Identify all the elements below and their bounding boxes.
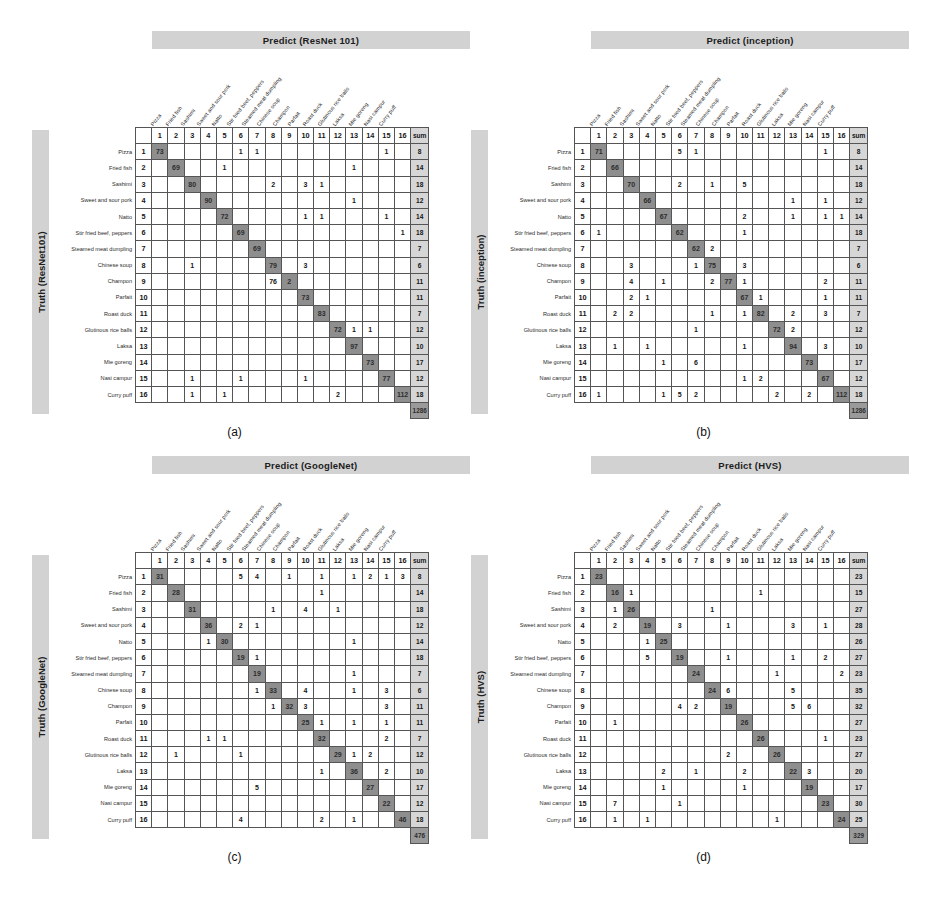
row-sum-cell: 14	[411, 633, 429, 649]
matrix-cell	[395, 208, 411, 224]
matrix-row: Sashimi38023118	[40, 176, 429, 192]
matrix-cell: 19	[639, 617, 655, 633]
matrix-cell	[785, 601, 801, 617]
matrix-cell	[607, 650, 623, 666]
column-header-label: Pizza	[149, 113, 162, 127]
matrix-cell	[672, 812, 688, 828]
matrix-cell	[639, 779, 655, 795]
matrix-cell	[330, 617, 346, 633]
matrix-cell	[704, 617, 720, 633]
row-index: 5	[575, 633, 591, 649]
matrix-cell	[395, 731, 411, 747]
matrix-cell	[623, 747, 639, 763]
matrix-cell: 2	[785, 306, 801, 322]
row-sum-cell: 17	[411, 354, 429, 370]
matrix-row: Roast duck11837	[40, 306, 429, 322]
matrix-cell	[200, 569, 216, 585]
column-index-header: 8	[265, 128, 281, 144]
matrix-cell: 1	[314, 176, 330, 192]
matrix-cell	[704, 698, 720, 714]
spacer-cell	[591, 403, 607, 419]
matrix-cell	[817, 747, 833, 763]
spacer-cell	[40, 403, 136, 419]
matrix-cell	[297, 160, 313, 176]
matrix-cell	[688, 306, 704, 322]
row-sum-cell: 14	[850, 160, 868, 176]
matrix-cell	[639, 387, 655, 403]
matrix-cell	[688, 795, 704, 811]
matrix-cell	[297, 666, 313, 682]
matrix-cell	[688, 747, 704, 763]
matrix-row: Steamed meat dumpling7241223	[479, 666, 868, 682]
matrix-cell	[720, 354, 736, 370]
matrix-cell	[216, 601, 232, 617]
row-index: 15	[575, 795, 591, 811]
matrix-cell: 3	[378, 682, 394, 698]
matrix-cell	[168, 322, 184, 338]
row-label: Fried fish	[40, 585, 136, 601]
row-sum-cell: 18	[850, 225, 868, 241]
spacer-cell	[479, 403, 575, 419]
matrix-cell	[395, 779, 411, 795]
matrix-cell	[216, 714, 232, 730]
matrix-cell	[330, 633, 346, 649]
row-label: Roast duck	[479, 306, 575, 322]
matrix-cell	[249, 289, 265, 305]
matrix-cell	[314, 601, 330, 617]
spacer-cell	[136, 828, 152, 844]
matrix-cell: 62	[672, 225, 688, 241]
matrix-cell	[346, 779, 362, 795]
panel-c-matrix: 12345678910111213141516sumPizza131541112…	[40, 552, 429, 844]
spacer-cell	[736, 403, 752, 419]
matrix-cell	[720, 306, 736, 322]
matrix-cell	[688, 569, 704, 585]
matrix-cell	[297, 650, 313, 666]
matrix-cell	[346, 650, 362, 666]
matrix-row: Sweet and sour pork4219313128	[479, 617, 868, 633]
column-index-header: 5	[216, 553, 232, 569]
matrix-cell: 6	[801, 698, 817, 714]
row-index: 16	[575, 812, 591, 828]
spacer-cell	[200, 403, 216, 419]
matrix-row: Curry puff161112425	[479, 812, 868, 828]
matrix-cell	[200, 812, 216, 828]
matrix-cell: 73	[801, 354, 817, 370]
matrix-cell: 1	[655, 354, 671, 370]
matrix-cell	[330, 779, 346, 795]
row-label: Stir fried beef, peppers	[40, 650, 136, 666]
matrix-cell	[817, 322, 833, 338]
matrix-cell: 1	[168, 747, 184, 763]
matrix-cell: 69	[168, 160, 184, 176]
matrix-cell	[639, 585, 655, 601]
matrix-cell	[672, 322, 688, 338]
row-sum-cell: 11	[411, 289, 429, 305]
panel-d: Predict (HVS) Truth (HVS) PizzaFried fis…	[469, 425, 938, 877]
matrix-cell	[785, 225, 801, 241]
column-header-label: Natto	[649, 538, 662, 552]
matrix-cell	[297, 354, 313, 370]
row-label: Parfait	[479, 289, 575, 305]
grand-total-row: 476	[40, 828, 429, 844]
sum-column-header: sum	[850, 128, 868, 144]
panel-d-title: Predict (HVS)	[591, 456, 909, 474]
row-label: Mie goreng	[40, 779, 136, 795]
matrix-cell	[216, 176, 232, 192]
matrix-cell	[753, 779, 769, 795]
row-sum-cell: 10	[411, 338, 429, 354]
matrix-cell: 1	[346, 747, 362, 763]
matrix-cell	[265, 387, 281, 403]
matrix-cell	[216, 779, 232, 795]
spacer-cell	[168, 403, 184, 419]
matrix-cell	[801, 650, 817, 666]
matrix-cell	[216, 666, 232, 682]
matrix-cell	[362, 731, 378, 747]
matrix-cell: 1	[314, 569, 330, 585]
matrix-row: Laksa13136210	[40, 763, 429, 779]
matrix-cell	[672, 192, 688, 208]
row-index: 2	[575, 585, 591, 601]
matrix-cell	[785, 354, 801, 370]
matrix-cell	[233, 666, 249, 682]
matrix-cell: 1	[314, 585, 330, 601]
spacer-cell	[184, 828, 200, 844]
matrix-cell	[362, 763, 378, 779]
